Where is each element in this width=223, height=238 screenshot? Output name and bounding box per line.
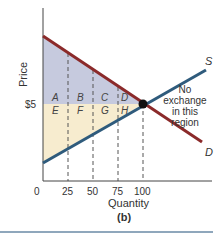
x-tick-0: 0 [34,186,40,197]
area-label-f: F [77,105,84,116]
demand-label: D [205,146,213,158]
x-tick-75: 75 [112,186,124,197]
annotation-line-3: in this [172,106,198,117]
x-tick-25: 25 [62,186,74,197]
x-axis-label: Quantity [108,197,149,209]
annotation-line-4: region [171,117,199,128]
area-label-a: A [51,92,59,103]
x-tick-50: 50 [87,186,99,197]
area-label-c: C [101,92,109,103]
equilibrium-point [139,100,148,109]
area-label-e: E [52,105,59,116]
annotation-line-2: exchange [163,95,207,106]
area-label-h: H [121,105,129,116]
supply-demand-chart: A B C D E F G H Price $5 0 25 50 75 100 … [0,0,223,238]
price-tick-5: $5 [25,99,37,110]
supply-label: S [205,55,213,67]
area-label-g: G [101,105,109,116]
figure-subtitle: (b) [117,211,131,223]
area-label-d: D [121,92,128,103]
area-label-b: B [77,92,84,103]
x-tick-100: 100 [134,186,151,197]
annotation-line-1: No [179,84,192,95]
y-axis-label: Price [17,62,29,87]
